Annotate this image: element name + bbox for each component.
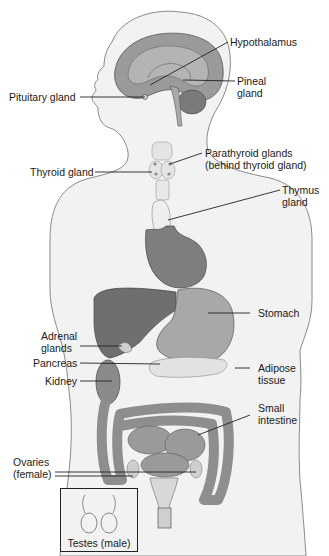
label-kidney: Kidney [45, 375, 77, 387]
testes-icon [61, 489, 137, 537]
ovary-left-icon [127, 460, 139, 478]
testes-inset: Testes (male) [60, 488, 138, 552]
label-ovaries: Ovaries(female) [13, 456, 52, 480]
label-pancreas: Pancreas [33, 357, 77, 369]
label-thymus-gland: Thymusgland [282, 184, 319, 208]
label-small-intestine: Smallintestine [258, 402, 297, 426]
label-pituitary-gland: Pituitary gland [9, 91, 76, 103]
ovary-right-icon [190, 460, 202, 478]
label-parathyroid-glands: Parathyroid glands(behind thyroid gland) [205, 147, 307, 171]
kidney-icon [96, 360, 120, 404]
pancreas-icon [149, 357, 226, 377]
label-testes: Testes (male) [61, 537, 137, 549]
label-stomach: Stomach [258, 307, 299, 319]
label-thyroid-gland: Thyroid gland [30, 166, 94, 178]
label-adrenal-glands: Adrenalglands [41, 330, 77, 354]
label-hypothalamus: Hypothalamus [230, 36, 297, 48]
label-pineal-gland: Pinealgland [237, 75, 266, 99]
label-adipose-tissue: Adiposetissue [258, 362, 296, 386]
cerebellum [178, 90, 206, 114]
